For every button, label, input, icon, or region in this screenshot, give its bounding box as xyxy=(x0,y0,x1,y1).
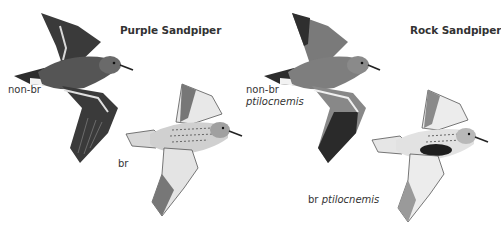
figure-label-rock-breeding: br ptilocnemis xyxy=(308,194,379,206)
plumage-label: non-br xyxy=(246,84,279,95)
figure-label-rock-nonbreeding: non-br ptilocnemis xyxy=(246,84,304,108)
subspecies-label: ptilocnemis xyxy=(322,194,380,205)
figure-label-purple-breeding: br xyxy=(118,158,128,170)
purple-sandpiper-breeding-illustration xyxy=(122,78,242,228)
plumage-label: non-br xyxy=(8,84,41,95)
figure-label-purple-nonbreeding: non-br xyxy=(8,84,41,96)
rock-sandpiper-breeding-ptilocnemis-illustration xyxy=(368,84,498,229)
field-guide-plate: Purple Sandpiper non-br xyxy=(0,0,501,231)
subspecies-label: ptilocnemis xyxy=(246,96,304,108)
plumage-label: br xyxy=(308,194,318,205)
plumage-label: br xyxy=(118,158,128,169)
species-title-purple-sandpiper: Purple Sandpiper xyxy=(120,24,221,36)
species-title-rock-sandpiper: Rock Sandpiper xyxy=(410,24,501,36)
